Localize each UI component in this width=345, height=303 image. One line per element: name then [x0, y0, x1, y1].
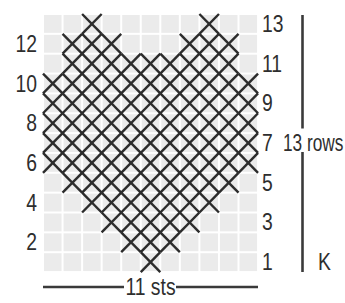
grid-cell — [44, 233, 62, 251]
grid-cell — [220, 194, 238, 212]
grid-cell — [240, 233, 258, 251]
grid-cell — [200, 253, 218, 271]
grid-cell — [240, 55, 258, 73]
grid-cell — [64, 194, 82, 212]
grid-cell — [64, 15, 82, 33]
row-label-left-4: 4 — [3, 191, 37, 215]
grid-cell — [64, 233, 82, 251]
grid-cell — [161, 15, 179, 33]
grid-cell — [220, 253, 238, 271]
grid-cell — [44, 174, 62, 192]
grid-cell — [142, 15, 160, 33]
grid-cell — [181, 15, 199, 33]
grid-cell — [83, 233, 101, 251]
grid-cell — [44, 214, 62, 232]
grid-cell — [161, 253, 179, 271]
stitch-count-label: 11 sts — [60, 275, 241, 299]
grid-cell — [44, 194, 62, 212]
grid-cell — [64, 253, 82, 271]
row-label-right-9: 9 — [262, 91, 273, 115]
row-label-right-7: 7 — [262, 131, 273, 155]
grid-cell — [122, 35, 140, 53]
grid-cell — [240, 174, 258, 192]
row-label-right-13: 13 — [262, 12, 283, 36]
grid-cell — [240, 253, 258, 271]
grid-cell — [44, 55, 62, 73]
knitting-chart-figure: 12108642 131197531 13 rows K 11 sts — [0, 0, 345, 303]
grid-cell — [103, 15, 121, 33]
grid-cell — [142, 35, 160, 53]
grid-cell — [181, 253, 199, 271]
rows-count-label: 13 rows — [283, 131, 343, 155]
grid-cell — [122, 15, 140, 33]
grid-cell — [161, 35, 179, 53]
grid-cell — [83, 214, 101, 232]
grid-cell — [220, 15, 238, 33]
grid-cell — [220, 233, 238, 251]
grid-cell — [103, 233, 121, 251]
grid-cell — [44, 253, 62, 271]
row-label-right-11: 11 — [262, 52, 282, 76]
row-label-left-8: 8 — [3, 111, 37, 135]
grid-cell — [44, 15, 62, 33]
grid-cell — [44, 35, 62, 53]
row-label-right-3: 3 — [262, 210, 273, 234]
row-label-right-5: 5 — [262, 171, 273, 195]
grid-cell — [83, 253, 101, 271]
grid-cell — [220, 214, 238, 232]
row-label-left-6: 6 — [3, 151, 37, 175]
row-label-right-1: 1 — [262, 250, 273, 274]
row-label-left-10: 10 — [3, 72, 37, 96]
grid-cell — [240, 194, 258, 212]
row-label-left-12: 12 — [3, 32, 37, 56]
grid-cell — [122, 253, 140, 271]
grid-cell — [240, 35, 258, 53]
grid-cell — [240, 15, 258, 33]
grid-cell — [103, 253, 121, 271]
grid-cell — [64, 214, 82, 232]
grid-cell — [200, 233, 218, 251]
grid-cell — [181, 233, 199, 251]
grid-cell — [200, 214, 218, 232]
row-label-left-2: 2 — [3, 230, 37, 254]
knit-label: K — [318, 250, 331, 274]
grid-cell — [240, 214, 258, 232]
